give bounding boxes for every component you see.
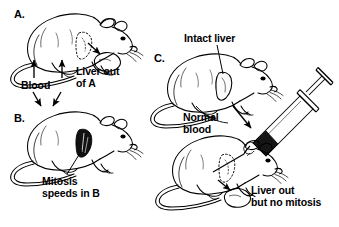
- arrow-liver-out-a: [88, 43, 100, 54]
- panel-letter-a: A.: [14, 8, 25, 20]
- label-blood: Blood: [21, 80, 50, 92]
- label-intact-liver: Intact liver: [184, 33, 235, 45]
- panel-letter-b: B.: [14, 112, 25, 124]
- arrow-liver-out-c: [218, 180, 230, 190]
- label-normal-blood: Normal blood: [183, 112, 219, 136]
- excised-liver-c: [224, 189, 250, 208]
- pointer-mitosis: [67, 150, 82, 174]
- mitotic-liver-b: [76, 129, 92, 157]
- panel-letter-c: C.: [154, 52, 165, 64]
- label-liver-out-but-no-mitosis: Liver out but no mitosis: [251, 185, 321, 209]
- figure-canvas: A. B. C. Blood Liver out of A Mitosis sp…: [0, 0, 339, 227]
- arrow-normal-blood: [233, 106, 251, 128]
- label-mitosis-speeds-in-b: Mitosis speeds in B: [42, 176, 100, 200]
- label-liver-out-of-a: Liver out of A: [76, 66, 119, 90]
- pointer-intact-liver: [217, 45, 223, 74]
